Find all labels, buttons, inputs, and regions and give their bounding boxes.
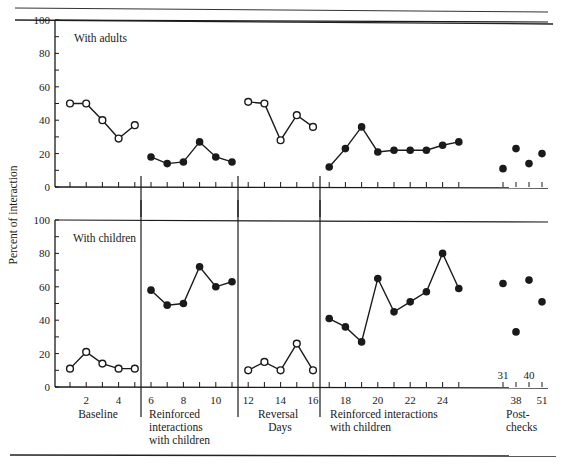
y-tick-label: 100 [34, 14, 51, 26]
y-tick-label: 80 [39, 247, 51, 259]
filled-circle-marker [342, 323, 350, 331]
open-circle-marker [131, 122, 138, 129]
filled-circle-marker [163, 160, 171, 168]
x-tick-label: 14 [275, 394, 287, 406]
filled-circle-marker [163, 301, 171, 309]
panel-title-adults: With adults [74, 32, 127, 44]
phase-label-postchecks: Post- [506, 408, 530, 420]
phase-label-baseline: Baseline [78, 408, 118, 420]
phase-label-reinforced-2: Reinforced interactions [330, 408, 438, 420]
y-tick-label: 60 [39, 81, 51, 93]
x-axis [55, 387, 548, 388]
top-rule [15, 8, 548, 12]
open-circle-marker [261, 100, 268, 107]
series-line [151, 267, 232, 305]
phase-label-reinforced-1: interactions [149, 421, 203, 433]
filled-circle-marker [212, 153, 220, 161]
open-circle-marker [293, 112, 300, 119]
open-circle-marker [67, 100, 74, 107]
open-circle-marker [245, 367, 252, 374]
open-circle-marker [310, 123, 317, 130]
chart-svg: 0204060801000204060801002468101214161820… [0, 0, 563, 471]
filled-circle-marker [358, 338, 366, 346]
filled-circle-marker [455, 285, 463, 293]
filled-circle-marker [228, 278, 236, 286]
filled-circle-marker [196, 263, 204, 271]
phase-label-reinforced-2: with children [330, 421, 391, 433]
filled-circle-marker [439, 141, 447, 149]
y-tick-label: 20 [39, 348, 51, 360]
x-tick-label: 10 [210, 394, 222, 406]
phase-label-reinforced-1: with children [149, 434, 210, 446]
data-series [67, 98, 546, 373]
filled-circle-marker [406, 146, 414, 154]
filled-circle-marker [212, 283, 220, 291]
phase-label-reinforced-1: Reinforced [149, 408, 200, 420]
filled-circle-marker [525, 160, 533, 168]
filled-circle-marker [180, 300, 188, 308]
x-tick-label: 24 [437, 394, 449, 406]
panel-top-line [55, 220, 548, 222]
open-circle-marker [310, 367, 317, 374]
y-tick-label: 0 [45, 181, 51, 193]
filled-circle-marker [439, 250, 447, 258]
x-tick-label-upper: 40 [524, 369, 536, 381]
open-circle-marker [277, 367, 284, 374]
filled-circle-marker [180, 158, 188, 166]
filled-circle-marker [455, 138, 463, 146]
x-tick-label: 12 [243, 394, 254, 406]
x-tick-label: 4 [116, 394, 122, 406]
x-tick-label: 22 [405, 394, 416, 406]
filled-circle-marker [512, 145, 520, 153]
filled-circle-marker [147, 286, 155, 294]
y-tick-label: 80 [39, 47, 51, 59]
open-circle-marker [83, 100, 90, 107]
filled-circle-marker [374, 148, 382, 156]
filled-circle-marker [342, 145, 350, 153]
open-circle-marker [99, 360, 106, 367]
y-tick-label: 60 [39, 281, 51, 293]
series-line [248, 102, 313, 140]
filled-circle-marker [390, 146, 398, 154]
y-tick-label: 40 [39, 114, 51, 126]
filled-circle-marker [406, 298, 414, 306]
filled-circle-marker [228, 158, 236, 166]
open-circle-marker [245, 98, 252, 105]
x-tick-label: 20 [372, 394, 384, 406]
filled-circle-marker [538, 298, 546, 306]
filled-circle-marker [423, 288, 431, 296]
open-circle-marker [131, 365, 138, 372]
filled-circle-marker [390, 308, 398, 316]
x-tick-label-upper: 31 [498, 369, 509, 381]
x-axis [55, 187, 548, 188]
filled-circle-marker [512, 328, 520, 336]
open-circle-marker [83, 349, 90, 356]
open-circle-marker [261, 359, 268, 366]
x-axis-title: Days [268, 421, 292, 434]
open-circle-marker [277, 137, 284, 144]
bottom-rule [10, 455, 556, 456]
y-tick-label: 0 [45, 381, 51, 393]
filled-circle-marker [147, 153, 155, 161]
axes: 0204060801000204060801002468101214161820… [34, 14, 549, 417]
panel-title-children: With children [73, 232, 136, 244]
series-line [151, 142, 232, 164]
filled-circle-marker [499, 165, 507, 173]
open-circle-marker [293, 340, 300, 347]
open-circle-marker [99, 117, 106, 124]
x-tick-label: 16 [308, 394, 320, 406]
filled-circle-marker [374, 275, 382, 283]
y-tick-label: 20 [39, 148, 51, 160]
filled-circle-marker [525, 276, 533, 284]
x-tick-label: 38 [511, 394, 523, 406]
open-circle-marker [115, 135, 122, 142]
x-tick-label: 8 [181, 394, 187, 406]
phase-label-reversal: Reversal [258, 408, 298, 420]
y-tick-label: 100 [34, 214, 51, 226]
filled-circle-marker [358, 123, 366, 131]
filled-circle-marker [423, 146, 431, 154]
filled-circle-marker [325, 315, 333, 323]
x-tick-label: 6 [148, 394, 154, 406]
filled-circle-marker [499, 280, 507, 288]
phase-label-postchecks: checks [506, 421, 538, 433]
